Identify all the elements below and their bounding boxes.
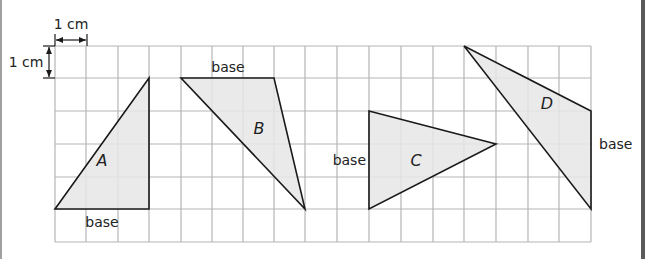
triangle-d: Dbase [464,46,632,209]
base-label: base [333,152,366,168]
base-label: base [211,59,244,75]
triangle-label: D [541,94,553,113]
triangle-label: C [410,151,422,170]
base-label: base [85,214,118,230]
page-right-border [641,0,645,259]
triangle-a: Abase [55,78,149,230]
base-label: base [599,136,632,152]
triangle-grid-diagram: AbaseBbaseCbaseDbase 1 cm1 cm [0,0,645,259]
triangle-c: Cbase [333,111,496,209]
triangle-label: A [96,151,108,170]
diagram-page: AbaseBbaseCbaseDbase 1 cm1 cm [0,0,645,259]
horizontal-scale-label: 1 cm [54,16,89,32]
vertical-scale-label: 1 cm [9,54,44,70]
scale-markers: 1 cm1 cm [9,16,89,78]
triangle-label: B [254,119,265,138]
triangles: AbaseBbaseCbaseDbase [55,46,632,230]
